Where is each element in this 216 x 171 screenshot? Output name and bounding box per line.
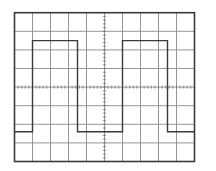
oscilloscope-screen bbox=[0, 0, 216, 171]
